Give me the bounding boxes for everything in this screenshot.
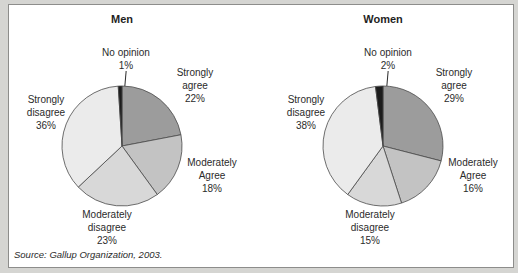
chart-title-men: Men bbox=[111, 13, 133, 25]
label-women-strongly-disagree: Strongly disagree 38% bbox=[287, 93, 325, 132]
pie-chart-women bbox=[321, 84, 445, 208]
pie-chart-men bbox=[60, 84, 184, 208]
label-women-strongly-agree: Strongly agree 29% bbox=[436, 66, 473, 105]
source-note: Source: Gallup Organization, 2003. bbox=[14, 249, 162, 260]
label-women-no-opinion: No opinion 2% bbox=[364, 46, 412, 72]
label-women-moderately-agree: Moderately Agree 16% bbox=[448, 156, 497, 195]
label-women-moderately-disagree: Moderately disagree 15% bbox=[345, 208, 394, 247]
label-men-no-opinion: No opinion 1% bbox=[102, 46, 150, 72]
chart-title-women: Women bbox=[363, 13, 403, 25]
label-men-strongly-agree: Strongly agree 22% bbox=[177, 66, 214, 105]
label-men-moderately-agree: Moderately Agree 18% bbox=[187, 156, 236, 195]
label-men-moderately-disagree: Moderately disagree 23% bbox=[82, 208, 131, 247]
label-men-strongly-disagree: Strongly disagree 36% bbox=[27, 93, 65, 132]
figure-panel: Men No opinion 1% Strongly agree 22% Mod… bbox=[8, 4, 514, 268]
